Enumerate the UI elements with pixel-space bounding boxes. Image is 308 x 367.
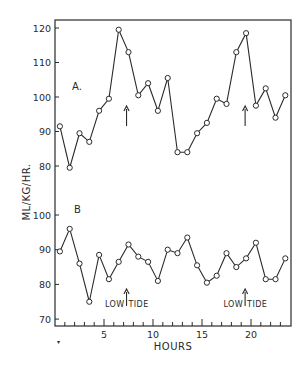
low-tide-label: LOW — [224, 300, 244, 309]
data-point-marker — [273, 277, 278, 282]
data-point-marker — [87, 299, 92, 304]
figure: 8090100110120 708090100 5101520 LOWTIDEL… — [0, 0, 308, 367]
data-point-marker — [263, 277, 268, 282]
data-point-marker — [224, 101, 229, 106]
data-point-marker — [283, 256, 288, 261]
data-point-marker — [126, 50, 131, 55]
y-tick-label: 120 — [33, 23, 51, 34]
y-tick-label: 110 — [33, 57, 51, 68]
data-point-marker — [97, 252, 102, 257]
plot-frame — [55, 20, 291, 326]
data-point-marker — [244, 31, 249, 36]
x-tick-label: 20 — [245, 329, 257, 340]
data-point-marker — [204, 280, 209, 285]
data-point-marker — [106, 277, 111, 282]
low-tide-label: TIDE — [128, 300, 149, 309]
x-axis-title: HOURS — [154, 341, 193, 352]
data-point-marker — [155, 278, 160, 283]
y-axis-title: ML/KG/HR. — [21, 163, 32, 220]
data-point-marker — [175, 150, 180, 155]
line-chart: 8090100110120 708090100 5101520 LOWTIDEL… — [0, 0, 308, 367]
data-point-marker — [263, 86, 268, 91]
low-tide-label: LOW — [105, 300, 125, 309]
data-point-marker — [126, 242, 131, 247]
data-point-marker — [97, 108, 102, 113]
data-point-marker — [57, 124, 62, 129]
panel-label-b: B — [74, 204, 81, 215]
data-point-marker — [87, 139, 92, 144]
data-point-marker — [244, 256, 249, 261]
data-point-marker — [283, 93, 288, 98]
data-point-marker — [116, 27, 121, 32]
data-point-marker — [57, 249, 62, 254]
y-tick-label: 80 — [39, 279, 51, 290]
data-point-marker — [146, 259, 151, 264]
data-point-marker — [185, 235, 190, 240]
x-tick-label: 5 — [101, 329, 107, 340]
data-point-marker — [116, 259, 121, 264]
data-point-marker — [106, 96, 111, 101]
y-tick-label: 100 — [33, 210, 51, 221]
data-point-marker — [234, 264, 239, 269]
x-tick-label: 10 — [147, 329, 159, 340]
data-point-marker — [234, 50, 239, 55]
data-point-marker — [136, 254, 141, 259]
y-tick-label: 100 — [33, 92, 51, 103]
data-point-marker — [165, 75, 170, 80]
y-tick-label: 70 — [39, 314, 51, 325]
scan-speck: ▾ — [57, 338, 60, 345]
data-point-marker — [185, 150, 190, 155]
data-point-marker — [67, 226, 72, 231]
y-tick-label: 80 — [39, 161, 51, 172]
series-line — [60, 30, 285, 168]
y-tick-label: 90 — [39, 244, 51, 255]
data-point-marker — [146, 81, 151, 86]
x-tick-label: 15 — [196, 329, 208, 340]
data-point-marker — [224, 251, 229, 256]
data-point-marker — [253, 103, 258, 108]
data-point-marker — [165, 247, 170, 252]
data-point-marker — [253, 240, 258, 245]
x-axis: 5101520 — [65, 319, 281, 340]
series-line — [60, 229, 285, 302]
series-panel-a — [57, 27, 288, 170]
data-point-marker — [273, 115, 278, 120]
panel-label-a: A. — [72, 81, 82, 92]
data-point-marker — [204, 120, 209, 125]
data-point-marker — [214, 273, 219, 278]
data-point-marker — [77, 131, 82, 136]
data-point-marker — [175, 251, 180, 256]
y-tick-label: 90 — [39, 126, 51, 137]
data-point-marker — [67, 165, 72, 170]
data-point-marker — [155, 108, 160, 113]
data-point-marker — [195, 131, 200, 136]
data-point-marker — [214, 96, 219, 101]
annotations-panel-a — [124, 106, 248, 126]
series-panel-b — [57, 226, 288, 304]
data-point-marker — [77, 261, 82, 266]
annotations-panel-b: LOWTIDELOWTIDE — [105, 289, 267, 309]
data-point-marker — [195, 263, 200, 268]
data-point-marker — [136, 93, 141, 98]
low-tide-label: TIDE — [246, 300, 267, 309]
